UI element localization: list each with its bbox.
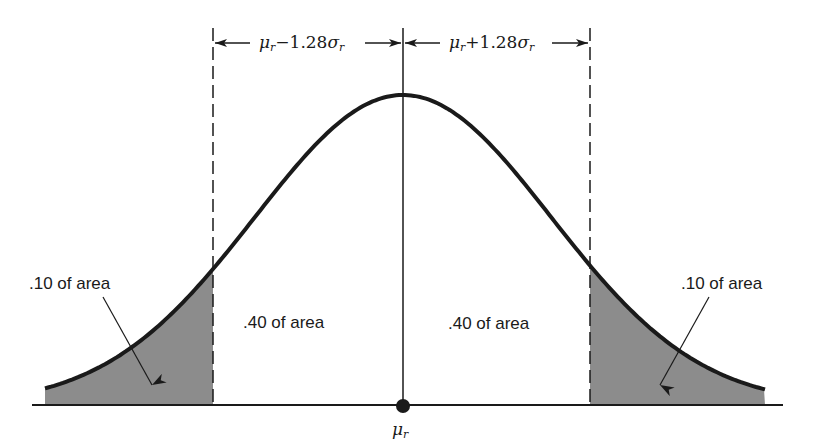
left-center-label: .40 of area (243, 313, 324, 333)
sigma-symbol: σ (327, 32, 339, 52)
coefficient: 1.28 (480, 32, 518, 52)
mu-symbol: μ (259, 32, 270, 52)
sigma-symbol: σ (517, 32, 529, 52)
operator: + (465, 32, 479, 52)
normal-curve-diagram (0, 0, 815, 442)
coefficient: 1.28 (290, 32, 328, 52)
mu-symbol: μ (392, 419, 403, 439)
mean-label: μr (390, 419, 410, 441)
operator: − (275, 32, 289, 52)
mean-point (396, 399, 410, 413)
right-tail-label: .10 of area (681, 274, 762, 294)
mu-symbol: μ (449, 32, 460, 52)
right-center-label: .40 of area (448, 314, 529, 334)
left-interval-label: μr−1.28σr (257, 32, 346, 54)
left-tail-label: .10 of area (29, 274, 110, 294)
sigma-subscript: r (529, 41, 534, 54)
sigma-subscript: r (339, 41, 344, 54)
right-interval-label: μr+1.28σr (447, 32, 536, 54)
mu-subscript: r (403, 428, 408, 441)
